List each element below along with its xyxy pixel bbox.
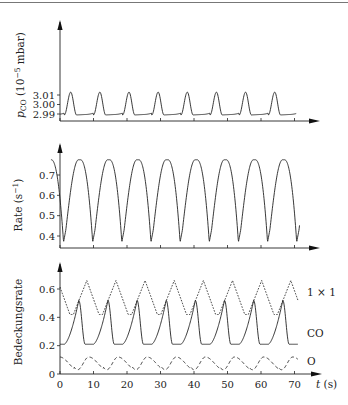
series-o: [60, 357, 298, 370]
series-1-1: [60, 281, 298, 315]
y-tick-label: 3.01: [33, 90, 55, 101]
y-tick-label: 0.6: [39, 190, 55, 201]
series-p_co: [60, 92, 296, 115]
legend-label-o: O: [307, 355, 316, 367]
x-tick-label: 20: [121, 379, 134, 390]
x-axis-arrow-icon: [311, 371, 322, 376]
y-tick-label: 0.6: [39, 284, 55, 295]
x-tick-label: 50: [221, 379, 234, 390]
y-tick-label: 2.99: [33, 109, 55, 120]
legend-label-1x1: 1 × 1: [307, 286, 336, 298]
x-axis-arrow-icon: [309, 245, 320, 250]
y-axis-arrow-icon: [57, 20, 62, 30]
y-axis-label: pCO (10−5 mbar): [13, 32, 28, 118]
series-co: [60, 300, 298, 344]
y-axis-label: Rate (s−1): [11, 179, 24, 232]
y-axis-arrow-icon: [57, 262, 62, 272]
figure: 2.993.003.01pCO (10−5 mbar)0.40.50.60.7R…: [0, 0, 348, 405]
y-axis-arrow-icon: [57, 143, 62, 153]
x-axis-label: t (s): [316, 378, 337, 390]
series-rate: [51, 160, 300, 242]
x-tick-label: 0: [57, 379, 63, 390]
y-tick-label: 0.2: [39, 340, 55, 351]
x-axis-arrow-icon: [309, 118, 320, 123]
x-tick-label: 40: [188, 379, 201, 390]
x-tick-label: 10: [87, 379, 100, 390]
legend-label-co: CO: [307, 327, 324, 339]
y-tick-label: 3.00: [33, 99, 55, 110]
x-tick-label: 70: [288, 379, 301, 390]
y-tick-label: 0.5: [39, 210, 55, 221]
y-tick-label: 0.4: [39, 231, 55, 242]
y-axis-label: Bedeckungsrate: [12, 279, 24, 365]
y-tick-label: 0.4: [39, 312, 55, 323]
x-tick-label: 60: [255, 379, 268, 390]
x-tick-label: 30: [154, 379, 167, 390]
y-tick-label: 0.7: [39, 170, 55, 181]
y-tick-label: 0: [49, 369, 55, 380]
